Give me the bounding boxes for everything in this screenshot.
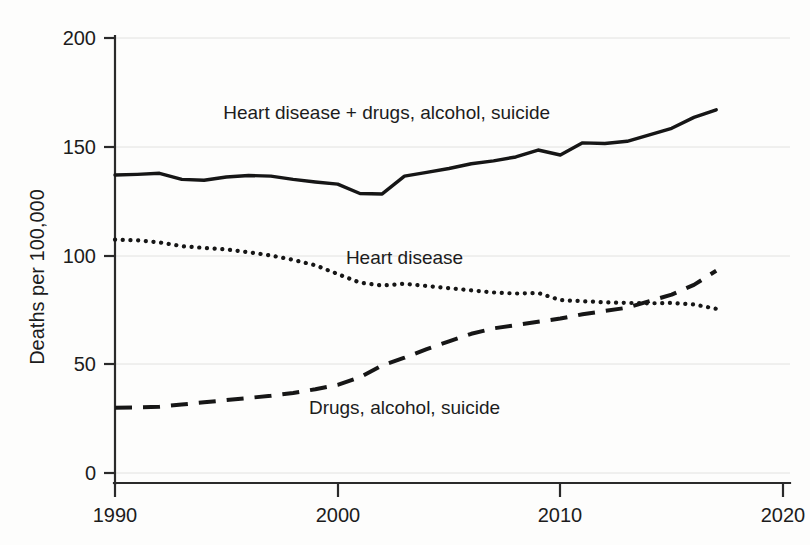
y-tick-label-200: 200: [63, 27, 96, 49]
series-line-drugs-alcohol-suicide: [115, 271, 716, 408]
x-tick-label-2000: 2000: [316, 504, 361, 526]
x-tick-label-2020: 2020: [761, 504, 806, 526]
series-label-heart-disease: Heart disease: [346, 247, 463, 268]
y-tick-label-150: 150: [63, 136, 96, 158]
x-tick-label-1990: 1990: [93, 504, 138, 526]
y-tick-label-50: 50: [74, 353, 96, 375]
y-tick-label-0: 0: [85, 462, 96, 484]
line-chart: 200 150 100 50 0 1990 2000 2010 2020 Dea…: [0, 0, 810, 545]
series-label-drugs: Drugs, alcohol, suicide: [309, 397, 500, 418]
y-tick-label-100: 100: [63, 245, 96, 267]
x-tick-label-2010: 2010: [538, 504, 583, 526]
chart-page: 200 150 100 50 0 1990 2000 2010 2020 Dea…: [0, 0, 810, 545]
x-tick-marks: [115, 483, 783, 497]
series-label-combined: Heart disease + drugs, alcohol, suicide: [223, 102, 550, 123]
y-axis-title: Deaths per 100,000: [26, 189, 48, 365]
y-tick-marks: [104, 38, 115, 473]
